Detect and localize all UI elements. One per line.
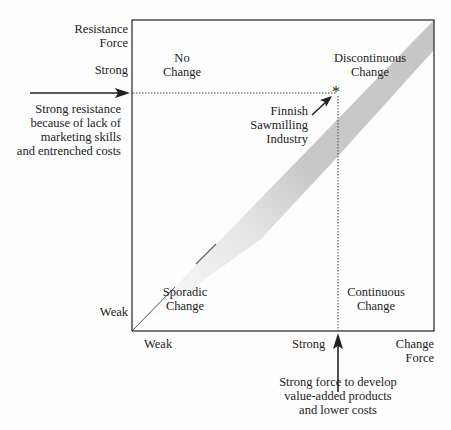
left-annotation-line3: marketing skills — [17, 130, 121, 144]
left-annotation-line1: Strong resistance — [17, 102, 121, 116]
quadrant-label-line2: Change — [155, 299, 215, 313]
y-axis-strong: Strong — [95, 63, 128, 77]
quadrant-label-line1: Discontinuous — [320, 51, 420, 65]
x-axis-label-line1: Change — [396, 337, 434, 351]
x-axis-weak: Weak — [144, 337, 172, 351]
asterisk-marker: * — [332, 85, 340, 99]
marker-label-line2: Sawmilling — [250, 118, 308, 132]
x-axis-label: Change Force — [396, 337, 434, 365]
left-annotation-line2: because of lack of — [17, 116, 121, 130]
quadrant-label-line2: Change — [320, 65, 420, 79]
marker-arrow — [312, 101, 327, 115]
bottom-annotation-line3: and lower costs — [268, 403, 408, 417]
y-axis-label-line1: Resistance — [75, 22, 128, 36]
y-axis-label: Resistance Force — [75, 22, 128, 50]
quadrant-sporadic-change: Sporadic Change — [155, 285, 215, 313]
quadrant-continuous-change: Continuous Change — [336, 285, 416, 313]
quadrant-label-line1: Sporadic — [155, 285, 215, 299]
y-axis-weak: Weak — [100, 305, 128, 319]
quadrant-discontinuous-change: Discontinuous Change — [320, 51, 420, 79]
y-axis-label-line2: Force — [75, 36, 128, 50]
marker-label-line3: Industry — [250, 132, 308, 146]
bottom-annotation-line2: value-added products — [268, 389, 408, 403]
marker-label-line1: Finnish — [250, 104, 308, 118]
quadrant-label-line2: Change — [336, 299, 416, 313]
x-axis-label-line2: Force — [396, 351, 434, 365]
quadrant-label-line1: Continuous — [336, 285, 416, 299]
left-annotation: Strong resistance because of lack of mar… — [17, 102, 121, 158]
bottom-annotation-line1: Strong force to develop — [268, 375, 408, 389]
x-axis-strong: Strong — [292, 337, 325, 351]
quadrant-label-line1: No — [152, 51, 212, 65]
marker-label: Finnish Sawmilling Industry — [250, 104, 308, 146]
bottom-annotation: Strong force to develop value-added prod… — [268, 375, 408, 417]
quadrant-no-change: No Change — [152, 51, 212, 79]
quadrant-label-line2: Change — [152, 65, 212, 79]
left-annotation-line4: and entrenched costs — [17, 144, 121, 158]
